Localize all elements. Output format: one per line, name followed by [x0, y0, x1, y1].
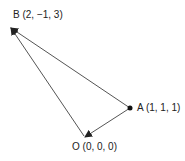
point-a-label: A (1, 1, 1) — [137, 102, 180, 114]
vector-o-to-b — [11, 28, 84, 136]
point-o-label: O (0, 0, 0) — [72, 141, 117, 153]
point-a-dot — [128, 106, 133, 111]
vector-diagram — [0, 0, 185, 161]
vector-a-to-o — [85, 108, 130, 137]
vector-a-to-b — [11, 28, 130, 108]
point-b-label: B (2, −1, 3) — [13, 9, 63, 21]
